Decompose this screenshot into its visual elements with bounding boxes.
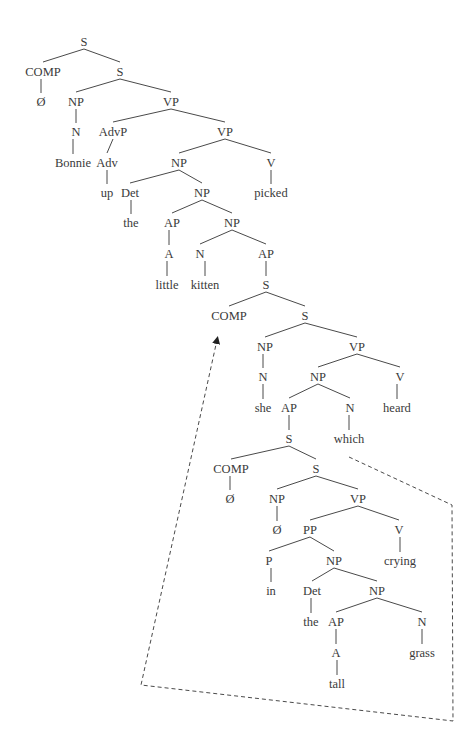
tree-edge — [84, 49, 120, 62]
tree-node-crying: crying — [384, 554, 417, 568]
tree-node-comp1: COMP — [211, 309, 246, 323]
tree-edge — [225, 139, 271, 153]
tree-node-adv: Adv — [96, 156, 118, 170]
tree-node-null1: Ø — [225, 492, 234, 506]
tree-edge — [269, 537, 310, 551]
tree-edge — [76, 79, 120, 92]
tree-node-tall: tall — [329, 677, 345, 691]
tree-edges — [41, 49, 422, 675]
tree-node-null0: Ø — [36, 95, 45, 109]
tree-node-ap4: AP — [328, 615, 344, 629]
tree-edge — [289, 384, 318, 398]
tree-edge — [107, 139, 113, 153]
tree-node-ap3: AP — [281, 401, 297, 415]
tree-edge — [305, 323, 357, 337]
tree-edge — [231, 446, 289, 459]
tree-edge — [358, 506, 399, 520]
tree-node-heard: heard — [383, 401, 412, 415]
tree-edge — [265, 323, 305, 337]
tree-node-s2: S — [263, 278, 270, 292]
tree-node-np6: NP — [310, 370, 326, 384]
tree-edge — [172, 200, 202, 213]
tree-node-bonnie: Bonnie — [55, 156, 92, 170]
tree-node-det2: Det — [303, 584, 322, 598]
tree-node-the2: the — [303, 615, 319, 629]
tree-edge — [179, 139, 225, 153]
tree-node-picked: picked — [254, 186, 288, 200]
tree-node-np4: NP — [224, 216, 240, 230]
tree-node-kitten: kitten — [191, 278, 220, 292]
tree-node-s1: S — [117, 65, 124, 79]
tree-node-v2: V — [394, 523, 403, 537]
tree-node-grass: grass — [409, 646, 435, 660]
tree-node-s4: S — [286, 432, 293, 446]
tree-edge — [312, 568, 334, 581]
tree-edge — [120, 79, 171, 92]
tree-edge — [310, 537, 334, 551]
tree-node-null2: Ø — [272, 523, 281, 537]
tree-node-a2: A — [331, 646, 340, 660]
tree-edge — [130, 170, 179, 183]
tree-node-np5: NP — [257, 340, 273, 354]
tree-node-she: she — [255, 401, 272, 415]
tree-edge — [310, 506, 358, 520]
tree-node-np1: NP — [68, 95, 84, 109]
tree-node-little: little — [156, 278, 179, 292]
tree-edge — [113, 109, 171, 122]
tree-node-n4: N — [345, 401, 354, 415]
tree-node-np7: NP — [269, 492, 285, 506]
tree-edge — [289, 446, 316, 459]
tree-edge — [277, 476, 316, 489]
tree-node-the1: the — [123, 216, 139, 230]
tree-edge — [229, 292, 266, 306]
tree-node-pp: PP — [303, 523, 317, 537]
tree-node-in: in — [266, 584, 276, 598]
tree-node-n2: N — [195, 247, 204, 261]
tree-node-np9: NP — [369, 584, 385, 598]
tree-node-ap2: AP — [258, 247, 274, 261]
syntax-tree-diagram: SCOMPØSNPNBonnieVPAdvPAdvupVPNPDettheNPA… — [0, 0, 475, 752]
tree-node-s0: S — [81, 35, 88, 49]
tree-edge — [334, 568, 377, 581]
movement-arrow — [141, 340, 453, 721]
tree-node-np8: NP — [326, 554, 342, 568]
tree-edge — [336, 598, 377, 612]
tree-node-vp4: VP — [350, 492, 366, 506]
tree-node-up: up — [101, 186, 114, 200]
tree-node-vp1: VP — [163, 95, 179, 109]
tree-node-s5: S — [313, 462, 320, 476]
tree-node-n5: N — [417, 615, 426, 629]
tree-edge — [200, 230, 232, 244]
tree-node-np2: NP — [171, 156, 187, 170]
tree-edge — [377, 598, 422, 612]
tree-edge — [318, 354, 357, 367]
tree-node-p: P — [266, 554, 273, 568]
tree-node-labels: SCOMPØSNPNBonnieVPAdvPAdvupVPNPDettheNPA… — [25, 35, 435, 691]
tree-node-vp3: VP — [349, 340, 365, 354]
tree-node-vp2: VP — [217, 125, 233, 139]
tree-edge — [43, 49, 84, 62]
tree-node-ap1: AP — [164, 216, 180, 230]
tree-edge — [232, 230, 266, 244]
tree-edge — [179, 170, 202, 183]
tree-node-np3: NP — [194, 186, 210, 200]
tree-node-comp0: COMP — [25, 65, 60, 79]
tree-node-det1: Det — [121, 186, 140, 200]
movement-dashed-path — [141, 340, 453, 721]
tree-edge — [357, 354, 400, 367]
tree-node-n1: N — [71, 125, 80, 139]
tree-node-s3: S — [302, 309, 309, 323]
tree-node-a1: A — [164, 247, 173, 261]
tree-edge — [316, 476, 358, 489]
tree-node-v1: V — [395, 370, 404, 384]
tree-edge — [202, 200, 232, 213]
tree-node-n3: N — [258, 370, 267, 384]
tree-node-comp2: COMP — [213, 462, 248, 476]
tree-edge — [318, 384, 350, 398]
tree-node-which: which — [334, 432, 365, 446]
tree-edge — [171, 109, 225, 122]
tree-node-v3: V — [266, 156, 275, 170]
tree-edge — [266, 292, 305, 306]
tree-node-advp: AdvP — [99, 125, 128, 139]
